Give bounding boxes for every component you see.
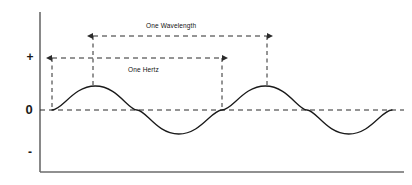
waveform-chart-canvas (0, 0, 412, 185)
annotation-label-wavelength: One Wavelength (146, 23, 196, 30)
waveform-figure: + 0 - One Wavelength One Hertz (0, 0, 412, 185)
y-axis-label-negative: - (22, 146, 38, 158)
y-axis-label-zero: 0 (21, 103, 37, 116)
y-axis-label-positive: + (22, 51, 38, 63)
annotation-label-hertz: One Hertz (128, 67, 159, 74)
